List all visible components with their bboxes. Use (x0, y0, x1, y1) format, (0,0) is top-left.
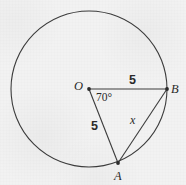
vertex-dot-a (116, 161, 120, 165)
geometry-canvas (0, 0, 186, 185)
length-label-chord-ab: x (130, 114, 135, 126)
vertex-dot-o (87, 87, 91, 91)
angle-label-aob: 70° (96, 92, 112, 104)
length-label-radius-oa: 5 (91, 120, 98, 133)
segment-chord-ab (118, 89, 167, 163)
point-label-a: A (114, 170, 122, 183)
geometry-figure: O B A 5 5 x 70° (0, 0, 186, 185)
vertex-dot-b (165, 87, 169, 91)
length-label-radius-ob: 5 (129, 74, 136, 87)
point-label-o: O (74, 80, 83, 93)
point-label-b: B (171, 83, 179, 96)
